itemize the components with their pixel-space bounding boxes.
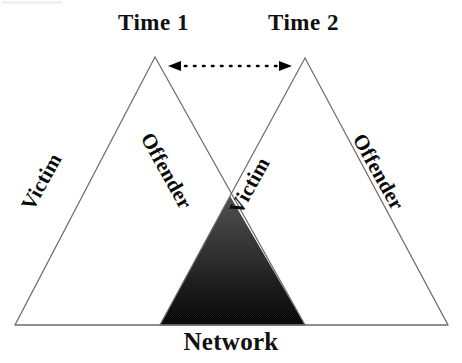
overlap-dither-texture <box>160 196 305 325</box>
time1-label: Time 1 <box>118 10 189 36</box>
arrow-head-left-icon <box>168 61 181 71</box>
triangle-overlap-diagram: Time 1 Time 2 Victim Offender Victim Off… <box>0 0 462 363</box>
network-label: Network <box>0 328 462 356</box>
time2-label: Time 2 <box>268 10 339 36</box>
arrow-head-right-icon <box>279 61 292 71</box>
time-interval-arrow <box>168 61 292 71</box>
